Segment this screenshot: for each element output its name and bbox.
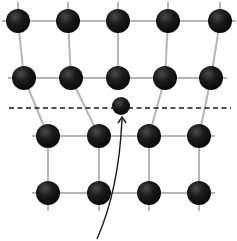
atom bbox=[12, 66, 36, 90]
atom bbox=[59, 66, 83, 90]
atom bbox=[156, 9, 180, 33]
atom bbox=[187, 181, 211, 205]
atom bbox=[87, 181, 111, 205]
atom bbox=[208, 9, 232, 33]
atom bbox=[36, 124, 60, 148]
atom bbox=[137, 181, 161, 205]
lattice-diagram bbox=[0, 0, 237, 241]
lattice-canvas bbox=[0, 0, 237, 241]
atom bbox=[199, 66, 223, 90]
atom bbox=[56, 9, 80, 33]
atom bbox=[153, 66, 177, 90]
atom bbox=[187, 124, 211, 148]
atom bbox=[6, 9, 30, 33]
atom bbox=[87, 124, 111, 148]
atom bbox=[137, 124, 161, 148]
atom bbox=[106, 66, 130, 90]
atom bbox=[106, 9, 130, 33]
interstitial-atom bbox=[112, 97, 130, 115]
atom bbox=[36, 181, 60, 205]
